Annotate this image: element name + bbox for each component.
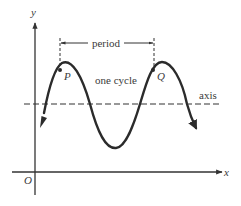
point-q-label: Q <box>157 70 165 82</box>
point-p-label: P <box>63 70 71 82</box>
curve-left-arrowhead <box>40 116 47 128</box>
sinusoid-diagram: y x O axis period P Q one cycle <box>0 0 241 206</box>
period-label: period <box>92 37 121 49</box>
point-q-marker <box>151 68 155 72</box>
one-cycle-label: one cycle <box>95 74 137 86</box>
y-axis-label: y <box>30 6 36 18</box>
origin-label: O <box>24 174 32 186</box>
point-p-marker <box>58 68 62 72</box>
x-axis-label: x <box>223 166 229 178</box>
midline-label: axis <box>199 89 217 101</box>
